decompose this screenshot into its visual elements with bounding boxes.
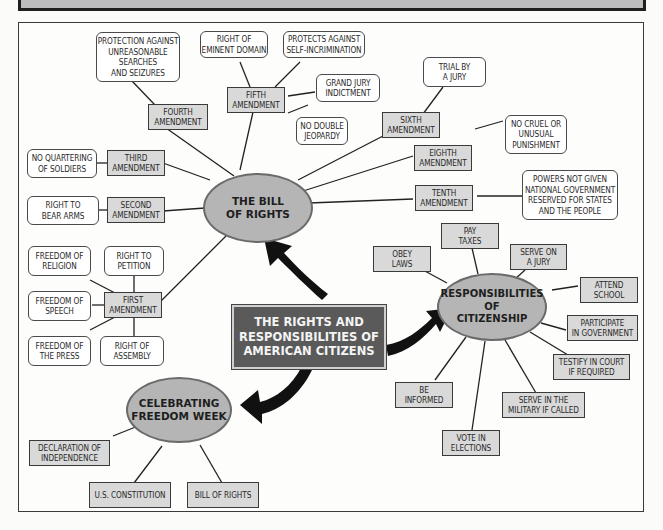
fourth-amendment-detail: PROTECTION AGAINST UNREASONABLE SEARCHES… (96, 32, 180, 82)
first-amendment-box: FIRST AMENDMENT (104, 292, 162, 318)
responsibility-vote-in-elections: VOTE IN ELECTIONS (442, 430, 500, 456)
sixth-amendment-box: SIXTH AMENDMENT (382, 112, 440, 138)
fourth-amendment-box: FOURTH AMENDMENT (148, 104, 208, 130)
first-amendment-detail-assembly: RIGHT OF ASSEMBLY (100, 336, 164, 366)
responsibility-obey-laws: OBEY LAWS (373, 246, 431, 272)
freedom-week-bill-of-rights: BILL OF RIGHTS (187, 482, 259, 508)
eighth-amendment-box: EIGHTH AMENDMENT (414, 145, 472, 171)
responsibility-be-informed: BE INFORMED (395, 382, 453, 408)
first-amendment-detail-press: FREEDOM OF THE PRESS (28, 336, 91, 366)
third-amendment-box: THIRD AMENDMENT (107, 150, 165, 176)
central-topic: THE RIGHTS AND RESPONSIBILITIES OF AMERI… (232, 305, 386, 369)
responsibility-serve-on-jury: SERVE ON A JURY (510, 244, 567, 270)
responsibility-pay-taxes: PAY TAXES (441, 223, 499, 249)
freedom-week-declaration: DECLARATION OF INDEPENDENCE (29, 440, 110, 466)
responsibility-participate-in-government: PARTICIPATE IN GOVERNMENT (567, 315, 638, 341)
responsibility-serve-in-military: SERVE IN THE MILITARY IF CALLED (502, 392, 585, 418)
arrow-to-freedom-week (240, 366, 312, 424)
second-amendment-detail: RIGHT TO BEAR ARMS (27, 196, 99, 225)
fifth-amendment-detail-eminent-domain: RIGHT OF EMINENT DOMAIN (200, 31, 268, 58)
sixth-amendment-detail: TRIAL BY A JURY (423, 57, 486, 87)
first-amendment-detail-speech: FREEDOM OF SPEECH (28, 291, 91, 321)
fifth-amendment-detail-double-jeopardy: NO DOUBLE JEOPARDY (296, 117, 348, 145)
fifth-amendment-detail-self-incrimination: PROTECTS AGAINST SELF-INCRIMINATION (283, 31, 365, 58)
fifth-amendment-box: FIFTH AMENDMENT (227, 87, 285, 113)
responsibilities-node: RESPONSIBILITIES OF CITIZENSHIP (437, 273, 547, 341)
freedom-week-constitution: U.S. CONSTITUTION (89, 482, 171, 508)
tenth-amendment-detail: POWERS NOT GIVEN NATIONAL GOVERNMENT RES… (522, 170, 618, 220)
bill-of-rights-node: THE BILL OF RIGHTS (203, 173, 313, 243)
responsibility-testify-in-court: TESTIFY IN COURT IF REQUIRED (553, 354, 630, 380)
second-amendment-box: SECOND AMENDMENT (107, 197, 165, 223)
eighth-amendment-detail: NO CRUEL OR UNUSUAL PUNISHMENT (505, 115, 567, 154)
responsibility-attend-school: ATTEND SCHOOL (580, 277, 638, 303)
first-amendment-detail-petition: RIGHT TO PETITION (104, 246, 164, 276)
fifth-amendment-detail-grand-jury: GRAND JURY INDICTMENT (316, 74, 380, 102)
third-amendment-detail: NO QUARTERING OF SOLDIERS (27, 149, 97, 178)
freedom-week-node: CELEBRATING FREEDOM WEEK (126, 377, 232, 443)
arrow-to-bill-of-rights (264, 238, 328, 300)
first-amendment-detail-religion: FREEDOM OF RELIGION (28, 246, 91, 276)
tenth-amendment-box: TENTH AMENDMENT (415, 185, 473, 211)
